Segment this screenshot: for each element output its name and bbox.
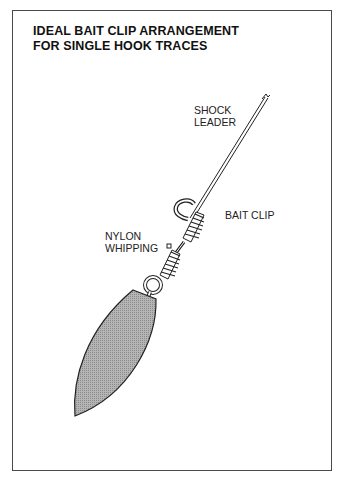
lead-sinker	[75, 290, 156, 416]
nylon-whipping-label: NYLON WHIPPING	[105, 230, 158, 254]
bait-clip-illustration	[0, 0, 341, 482]
lower-nylon-whipping	[160, 250, 180, 279]
shock-leader-label: SHOCK LEADER	[194, 104, 236, 128]
bait-clip-label: BAIT CLIP	[225, 209, 274, 221]
